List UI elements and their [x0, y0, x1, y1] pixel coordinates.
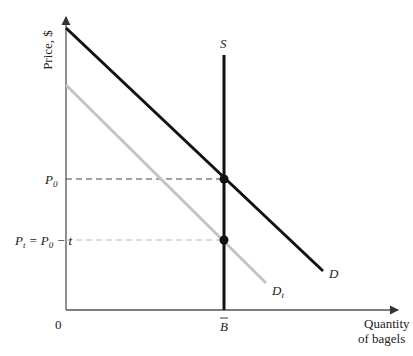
quantity-b-bar-label: B — [220, 319, 228, 334]
x-axis-label-line1: Quantity — [364, 316, 410, 331]
origin-label: 0 — [55, 317, 62, 332]
taxed-demand-label: Dt — [271, 283, 284, 300]
y-axis-label: Price, $ — [40, 30, 55, 70]
supply-label: S — [220, 36, 227, 51]
demand-label: D — [328, 266, 339, 281]
taxed-demand-curve — [66, 85, 266, 283]
equilibrium-point-p0 — [220, 175, 229, 184]
equilibrium-point-pt — [220, 236, 229, 245]
pt-label: Pt = P0 − t — [14, 233, 72, 250]
x-axis-label-line2: of bagels — [358, 331, 405, 346]
tax-incidence-diagram: Price, $ 0 P0 Pt = P0 − t S D Dt B Quant… — [0, 0, 413, 356]
demand-curve — [66, 28, 323, 271]
p0-label: P0 — [44, 172, 58, 189]
